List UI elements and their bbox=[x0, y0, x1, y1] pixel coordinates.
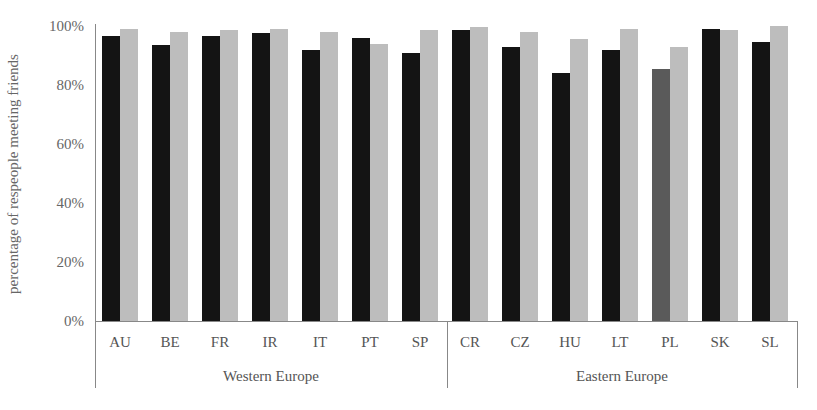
y-axis-label: percentage of respeople meeting friends bbox=[5, 54, 22, 294]
bar-fr-series2 bbox=[220, 30, 238, 321]
y-tick-label: 20% bbox=[44, 254, 84, 270]
group-label-eastern-europe: Eastern Europe bbox=[447, 368, 797, 385]
bar-pt-series1 bbox=[352, 38, 370, 321]
bar-au-series2 bbox=[120, 29, 138, 321]
bar-ir-series2 bbox=[270, 29, 288, 321]
bar-cr-series2 bbox=[470, 27, 488, 321]
bar-sk-series2 bbox=[720, 30, 738, 321]
bar-fr-series1 bbox=[202, 36, 220, 321]
bar-sk-series1 bbox=[702, 29, 720, 321]
x-tick-label-sp: SP bbox=[395, 334, 445, 351]
x-axis-baseline bbox=[95, 321, 797, 322]
x-tick-label-cr: CR bbox=[445, 334, 495, 351]
bar-au-series1 bbox=[102, 36, 120, 321]
x-tick-label-cz: CZ bbox=[495, 334, 545, 351]
y-tick-label: 80% bbox=[44, 77, 84, 93]
bar-cz-series1 bbox=[502, 47, 520, 321]
right-edge-line bbox=[797, 321, 798, 388]
bar-hu-series2 bbox=[570, 39, 588, 321]
x-tick-label-hu: HU bbox=[545, 334, 595, 351]
y-tick-label: 40% bbox=[44, 195, 84, 211]
bar-pl-series2 bbox=[670, 47, 688, 321]
x-tick-label-sl: SL bbox=[745, 334, 795, 351]
x-tick-label-pt: PT bbox=[345, 334, 395, 351]
bar-it-series1 bbox=[302, 50, 320, 321]
bar-lt-series1 bbox=[602, 50, 620, 321]
y-tick-label: 60% bbox=[44, 136, 84, 152]
bar-pl-series1 bbox=[652, 69, 670, 321]
bar-be-series1 bbox=[152, 45, 170, 321]
y-tick-label: 100% bbox=[44, 18, 84, 34]
grouped-bar-chart: percentage of respeople meeting friends … bbox=[0, 0, 817, 410]
x-tick-label-pl: PL bbox=[645, 334, 695, 351]
x-tick-label-it: IT bbox=[295, 334, 345, 351]
x-tick-label-ir: IR bbox=[245, 334, 295, 351]
x-tick-label-au: AU bbox=[95, 334, 145, 351]
bar-sl-series2 bbox=[770, 26, 788, 321]
bar-pt-series2 bbox=[370, 44, 388, 321]
y-tick-label: 0% bbox=[44, 313, 84, 329]
bar-be-series2 bbox=[170, 32, 188, 321]
bar-cr-series1 bbox=[452, 30, 470, 321]
bar-sp-series1 bbox=[402, 53, 420, 321]
bar-lt-series2 bbox=[620, 29, 638, 321]
bar-ir-series1 bbox=[252, 33, 270, 321]
bar-cz-series2 bbox=[520, 32, 538, 321]
bar-sp-series2 bbox=[420, 30, 438, 321]
x-tick-label-sk: SK bbox=[695, 334, 745, 351]
bar-it-series2 bbox=[320, 32, 338, 321]
x-tick-label-be: BE bbox=[145, 334, 195, 351]
x-tick-label-lt: LT bbox=[595, 334, 645, 351]
x-tick-label-fr: FR bbox=[195, 334, 245, 351]
bar-hu-series1 bbox=[552, 73, 570, 321]
bar-sl-series1 bbox=[752, 42, 770, 321]
group-label-western-europe: Western Europe bbox=[95, 368, 447, 385]
